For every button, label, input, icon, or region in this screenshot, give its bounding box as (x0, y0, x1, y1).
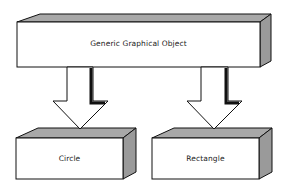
parent-box-side (260, 14, 271, 67)
rectangle-label: Rectangle (152, 155, 259, 163)
rectangle-box-top (152, 128, 272, 138)
arrow-to-rectangle-icon (187, 67, 242, 129)
circle-label: Circle (16, 155, 123, 163)
circle-box-top (16, 128, 136, 138)
parent-box-top (17, 14, 271, 22)
arrow-to-circle-icon (53, 67, 108, 129)
parent-label: Generic Graphical Object (17, 40, 260, 48)
